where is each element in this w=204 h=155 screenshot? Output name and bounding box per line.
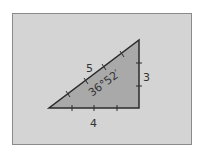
- hypotenuse-label: 5: [86, 62, 93, 75]
- horizontal-leg-label: 4: [90, 117, 97, 130]
- vertical-leg-label: 3: [143, 71, 150, 84]
- triangle-diagram: 5 3 4 36°52′: [0, 0, 204, 155]
